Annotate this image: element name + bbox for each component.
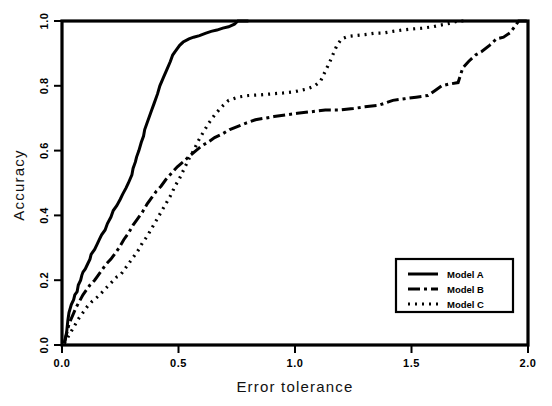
x-axis-tick-labels: 0.00.51.01.52.0 bbox=[54, 357, 537, 369]
x-tick-label: 0.0 bbox=[54, 357, 71, 369]
x-tick-label: 1.0 bbox=[287, 357, 304, 369]
y-axis-title: Accuracy bbox=[10, 149, 27, 220]
y-axis-tick-labels: 0.00.20.40.60.81.0 bbox=[38, 13, 50, 354]
legend-label-model-c: Model C bbox=[447, 299, 484, 310]
x-tick-label: 0.5 bbox=[170, 357, 187, 369]
y-tick-label: 0.2 bbox=[38, 272, 50, 289]
accuracy-vs-error-tolerance-chart: 0.00.51.01.52.0 0.00.20.40.60.81.0 Error… bbox=[0, 0, 552, 406]
series-model-a bbox=[64, 21, 248, 343]
y-tick-label: 0.0 bbox=[38, 337, 50, 354]
x-tick-label: 1.5 bbox=[403, 357, 420, 369]
legend-label-model-a: Model A bbox=[447, 269, 484, 280]
y-tick-label: 1.0 bbox=[38, 13, 50, 30]
y-tick-label: 0.4 bbox=[38, 207, 50, 224]
y-tick-label: 0.6 bbox=[38, 142, 50, 159]
y-tick-label: 0.8 bbox=[38, 77, 50, 94]
x-tick-label: 2.0 bbox=[520, 357, 537, 369]
chart-legend: Model AModel BModel C bbox=[396, 259, 513, 312]
legend-label-model-b: Model B bbox=[447, 284, 484, 295]
x-axis-title: Error tolerance bbox=[236, 378, 353, 395]
chart-container: 0.00.51.01.52.0 0.00.20.40.60.81.0 Error… bbox=[0, 0, 552, 406]
